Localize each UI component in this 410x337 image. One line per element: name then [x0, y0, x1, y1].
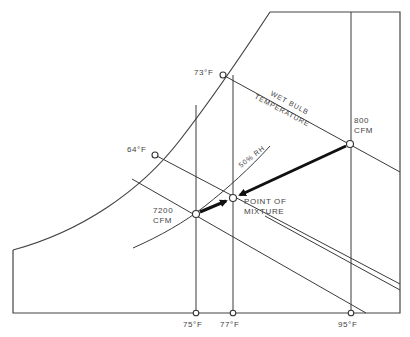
point-of-mixture [230, 195, 237, 202]
label-800: 800 [354, 116, 369, 125]
label-77f: 77°F [220, 320, 239, 329]
label-64f: 64°F [127, 145, 146, 154]
point-75f-axis [193, 310, 199, 316]
point-77f-axis [230, 310, 236, 316]
point-64f [152, 152, 158, 158]
label-800-cfm: CFM [354, 126, 373, 135]
point-return-7200cfm [193, 211, 200, 218]
point-73f [220, 72, 226, 78]
label-7200: 7200 [153, 206, 173, 215]
psychrometric-chart: 73°F 64°F WET BULB TEMPERATURE 50% RH 80… [0, 0, 410, 337]
label-7200-cfm: CFM [153, 216, 172, 225]
wet-bulb-line-64 [155, 155, 400, 284]
label-mixture: MIXTURE [244, 207, 284, 216]
wet-bulb-line-mixture [265, 216, 400, 290]
point-95f-axis [348, 310, 354, 316]
label-point-of: POINT OF [244, 197, 286, 206]
chart-outline [13, 12, 400, 313]
point-outdoor-800cfm [347, 141, 354, 148]
saturation-curve [13, 12, 270, 250]
label-75f: 75°F [183, 320, 202, 329]
label-73f: 73°F [194, 68, 213, 77]
label-95f: 95°F [338, 320, 357, 329]
